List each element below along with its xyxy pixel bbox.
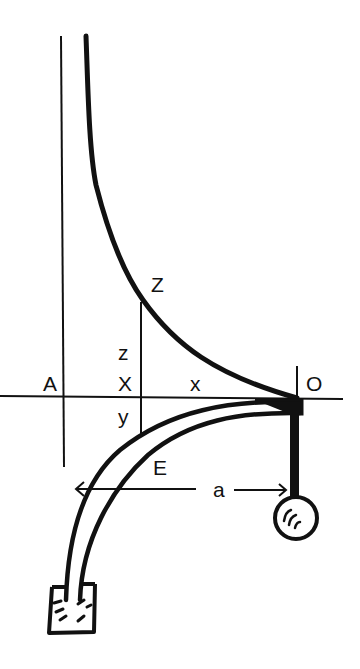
container-vessel bbox=[49, 584, 95, 633]
tractrix-diagram: A X x Z z y O E a bbox=[0, 0, 360, 669]
label-a: a bbox=[213, 478, 225, 501]
bulb bbox=[275, 497, 317, 539]
bulb-stem bbox=[290, 412, 299, 497]
label-O: O bbox=[306, 372, 322, 395]
vertical-asymptote-line bbox=[61, 36, 64, 467]
label-E: E bbox=[153, 456, 167, 479]
label-y: y bbox=[118, 405, 129, 428]
label-X-point: X bbox=[118, 372, 132, 395]
tube-inner-wall bbox=[80, 413, 300, 600]
label-x-distance: x bbox=[190, 372, 201, 395]
label-z: z bbox=[118, 341, 129, 364]
label-A: A bbox=[43, 372, 57, 395]
label-Z: Z bbox=[151, 273, 164, 296]
container-hatch-marks bbox=[54, 600, 91, 621]
